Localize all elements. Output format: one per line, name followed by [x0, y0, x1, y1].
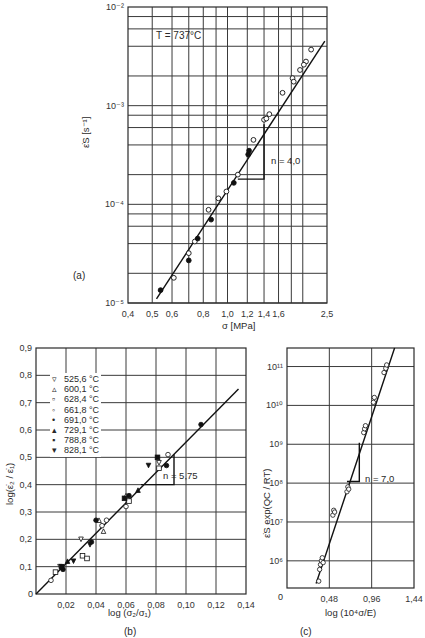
chart-c-origin-label: 0 [278, 592, 283, 602]
data-point [317, 579, 321, 583]
slope-triangle [347, 443, 359, 482]
legend-label: 628,4 °C [64, 394, 99, 404]
data-point [301, 62, 306, 67]
x-tick-label: 0,5 [146, 309, 159, 319]
legend-label: 691,0 °C [64, 415, 99, 425]
legend-marker-icon: ▿ [52, 374, 64, 384]
fit-line [316, 348, 394, 584]
chart-b-panel-label: (b) [124, 626, 136, 637]
data-point [320, 556, 324, 560]
chart-c-xlabel: log (10⁴σ/E) [325, 607, 376, 618]
figure-canvas: 0,40,50,60,81,01,21,41,62,510⁻⁵10⁻⁴10⁻³1… [0, 0, 425, 638]
data-point [155, 455, 160, 460]
legend-label: 600,1 °C [64, 384, 99, 394]
data-point [247, 148, 252, 153]
legend-marker-icon: ▾ [52, 445, 64, 455]
data-point [251, 137, 256, 142]
chart-c-panel-label: (c) [300, 626, 312, 637]
chart-a-temp-annotation: T = 737°C [156, 30, 201, 41]
data-point [59, 564, 64, 569]
data-point [85, 556, 90, 561]
data-point [372, 395, 376, 399]
data-point [235, 172, 240, 177]
y-tick-label: 10¹¹ [267, 362, 283, 372]
data-point [382, 370, 386, 374]
fit-line [156, 41, 324, 299]
data-point [171, 275, 176, 280]
data-point [94, 518, 99, 523]
data-point [280, 90, 285, 95]
y-tick-label: 10¹⁰ [266, 400, 283, 410]
chart-c-ylabel: ε̇S exp(QC / RT) [261, 468, 272, 538]
legend-item: ▵600,1 °C [52, 384, 99, 394]
x-tick-label: 0,02 [57, 600, 75, 610]
y-tick-label: 0,1 [19, 562, 32, 572]
data-point [231, 180, 236, 185]
data-point [264, 116, 269, 121]
data-point [101, 529, 106, 534]
data-point [49, 578, 54, 583]
legend-marker-icon: ▴ [52, 425, 64, 435]
y-tick-label: 10⁹ [269, 439, 283, 449]
x-tick-label: 0,6 [166, 309, 179, 319]
y-tick-label: 0,9 [19, 343, 32, 353]
data-point [122, 496, 127, 501]
legend-marker-icon: ▪ [52, 435, 64, 445]
chart-b-origin-label: 0 [28, 589, 33, 599]
data-point [298, 68, 303, 73]
data-point [332, 510, 336, 514]
legend-marker-icon: ◦ [52, 405, 64, 415]
x-tick-label: 0,4 [122, 309, 135, 319]
x-tick-label: 2,5 [321, 309, 334, 319]
chart-b-slope-label: n = 5,75 [163, 470, 198, 481]
legend-label: 661,8 °C [64, 405, 99, 415]
data-point [321, 560, 325, 564]
x-tick-label: 0,04 [87, 600, 105, 610]
data-point [216, 196, 221, 201]
x-tick-label: 0,96 [363, 594, 381, 604]
legend-item: •691,0 °C [52, 415, 99, 425]
y-tick-label: 10⁻² [106, 2, 124, 12]
y-tick-label: 0,8 [19, 370, 32, 380]
plot-frame [287, 348, 414, 588]
data-point [53, 570, 58, 575]
data-point [309, 47, 314, 52]
legend-label: 828,1 °C [64, 445, 99, 455]
data-point [267, 112, 272, 117]
data-point [317, 567, 321, 571]
y-tick-label: 10⁻⁵ [105, 298, 124, 308]
x-tick-label: 0,14 [237, 600, 255, 610]
data-point [186, 251, 191, 256]
data-point [209, 217, 214, 222]
data-point [384, 363, 388, 367]
legend-item: ▪788,8 °C [52, 435, 99, 445]
legend-item: ▫628,4 °C [52, 394, 99, 404]
x-tick-label: 1,44 [405, 594, 423, 604]
data-point [71, 559, 76, 564]
data-point [371, 400, 375, 404]
data-point [158, 288, 163, 293]
data-point [164, 463, 169, 468]
data-point [157, 466, 162, 471]
chart-a-ylabel: ε̇S [s⁻¹] [80, 117, 91, 148]
data-point [199, 422, 204, 427]
legend-marker-icon: ▫ [52, 394, 64, 404]
legend-marker-icon: ▵ [52, 384, 64, 394]
data-point [146, 463, 151, 468]
legend-item: ▿525,6 °C [52, 374, 99, 384]
y-tick-label: 0,5 [19, 452, 32, 462]
legend-item: ▴729,1 °C [52, 425, 99, 435]
legend-marker-icon: • [52, 415, 64, 425]
y-tick-label: 0,2 [19, 534, 32, 544]
data-point [224, 189, 229, 194]
x-tick-label: 1,0 [221, 309, 234, 319]
data-point [100, 523, 105, 528]
y-tick-label: 0,4 [19, 480, 32, 490]
x-tick-label: 1,4 [258, 309, 271, 319]
y-tick-label: 10⁻⁴ [105, 199, 124, 209]
legend-item: ◦661,8 °C [52, 405, 99, 415]
y-tick-label: 0,7 [19, 398, 32, 408]
x-tick-label: 0,10 [177, 600, 195, 610]
y-tick-label: 0,3 [19, 507, 32, 517]
data-point [347, 487, 351, 491]
